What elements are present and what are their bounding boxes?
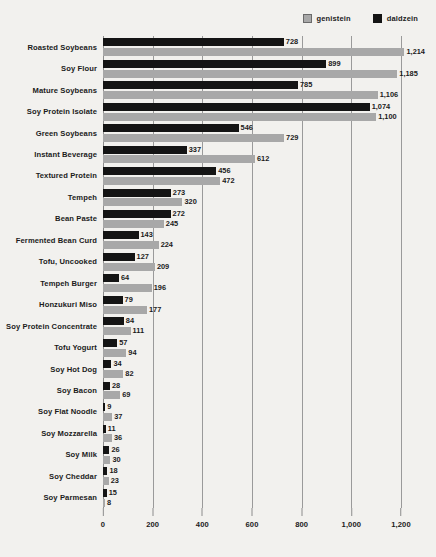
bar-daidzein[interactable] <box>103 296 123 304</box>
bar-group-genistein: 37 <box>103 413 122 421</box>
bar-value-daidzein: 143 <box>141 231 153 239</box>
bar-rows: Roasted Soybeans7281,214Soy Flour8991,18… <box>103 36 401 508</box>
x-tick: 0 <box>101 508 105 529</box>
bar-group-genistein: 196 <box>103 284 166 292</box>
bar-row: Soy Flour8991,185 <box>103 57 401 78</box>
bar-daidzein[interactable] <box>103 38 284 46</box>
bar-value-genistein: 23 <box>111 477 119 485</box>
legend-item-daidzein[interactable]: daldzein <box>373 14 418 23</box>
bar-value-genistein: 69 <box>122 391 130 399</box>
bar-daidzein[interactable] <box>103 425 106 433</box>
category-label: Tofu Yogurt <box>54 343 97 352</box>
bar-genistein[interactable] <box>103 263 155 271</box>
bar-genistein[interactable] <box>103 434 112 442</box>
bar-value-genistein: 111 <box>133 327 145 335</box>
bar-row: Soy Parmesan158 <box>103 487 401 508</box>
bar-daidzein[interactable] <box>103 189 171 197</box>
bar-daidzein[interactable] <box>103 317 124 325</box>
bar-daidzein[interactable] <box>103 382 110 390</box>
bar-daidzein[interactable] <box>103 403 105 411</box>
bar-group-genistein: 30 <box>103 456 121 464</box>
bar-genistein[interactable] <box>103 391 120 399</box>
bar-genistein[interactable] <box>103 198 182 206</box>
bar-group-genistein: 111 <box>103 327 144 335</box>
bar-genistein[interactable] <box>103 91 378 99</box>
bar-genistein[interactable] <box>103 370 123 378</box>
bar-value-daidzein: 9 <box>107 403 111 411</box>
bar-daidzein[interactable] <box>103 103 370 111</box>
legend-item-genistein[interactable]: genistein <box>303 14 351 23</box>
bar-value-genistein: 177 <box>149 306 161 314</box>
bar-genistein[interactable] <box>103 349 126 357</box>
bar-genistein[interactable] <box>103 413 112 421</box>
category-label: Tofu, Uncooked <box>39 257 97 266</box>
bar-group-daidzein: 11 <box>103 425 116 433</box>
bar-genistein[interactable] <box>103 456 110 464</box>
x-tick-label: 800 <box>295 520 308 529</box>
bar-value-daidzein: 64 <box>121 274 129 282</box>
bar-group-genistein: 612 <box>103 155 269 163</box>
bar-genistein[interactable] <box>103 220 164 228</box>
bar-group-genistein: 320 <box>103 198 197 206</box>
bar-row: Honzukuri Miso79177 <box>103 293 401 314</box>
bar-genistein[interactable] <box>103 306 147 314</box>
bar-daidzein[interactable] <box>103 210 171 218</box>
bar-row: Soy Flat Noodle937 <box>103 401 401 422</box>
bar-group-daidzein: 273 <box>103 189 185 197</box>
bar-genistein[interactable] <box>103 499 105 507</box>
bar-group-daidzein: 546 <box>103 124 253 132</box>
bar-daidzein[interactable] <box>103 81 298 89</box>
bar-genistein[interactable] <box>103 284 152 292</box>
x-tick-mark <box>400 508 401 516</box>
bar-genistein[interactable] <box>103 134 284 142</box>
bar-daidzein[interactable] <box>103 360 111 368</box>
bar-genistein[interactable] <box>103 113 376 121</box>
bar-value-genistein: 1,100 <box>378 113 397 121</box>
bar-genistein[interactable] <box>103 155 255 163</box>
bar-group-daidzein: 79 <box>103 296 133 304</box>
bar-value-genistein: 1,185 <box>399 70 418 78</box>
bar-daidzein[interactable] <box>103 467 107 475</box>
bar-genistein[interactable] <box>103 327 131 335</box>
bar-value-genistein: 1,106 <box>380 91 399 99</box>
bar-genistein[interactable] <box>103 477 109 485</box>
bar-row: Soy Milk2630 <box>103 444 401 465</box>
x-tick: 800 <box>295 508 308 529</box>
bar-daidzein[interactable] <box>103 339 117 347</box>
bar-value-daidzein: 127 <box>137 253 149 261</box>
bar-daidzein[interactable] <box>103 60 326 68</box>
bar-genistein[interactable] <box>103 177 220 185</box>
bar-value-daidzein: 273 <box>173 189 185 197</box>
bar-value-daidzein: 18 <box>109 467 117 475</box>
x-tick-label: 1,200 <box>391 520 411 529</box>
bar-group-genistein: 472 <box>103 177 235 185</box>
bar-daidzein[interactable] <box>103 446 109 454</box>
bar-genistein[interactable] <box>103 70 397 78</box>
bar-daidzein[interactable] <box>103 274 119 282</box>
legend-label-daidzein: daldzein <box>387 14 418 23</box>
category-label: Textured Protein <box>36 171 97 180</box>
category-label: Soy Hot Dog <box>50 364 97 373</box>
bar-daidzein[interactable] <box>103 253 135 261</box>
bar-value-daidzein: 28 <box>112 382 120 390</box>
gridline-1200 <box>401 36 402 508</box>
bar-daidzein[interactable] <box>103 167 216 175</box>
bar-daidzein[interactable] <box>103 489 107 497</box>
bar-genistein[interactable] <box>103 241 159 249</box>
bar-daidzein[interactable] <box>103 146 187 154</box>
category-label: Tempeh <box>68 192 97 201</box>
bar-group-daidzein: 272 <box>103 210 185 218</box>
bar-genistein[interactable] <box>103 48 404 56</box>
bar-value-daidzein: 84 <box>126 317 134 325</box>
bar-value-daidzein: 11 <box>108 425 116 433</box>
bar-row: Roasted Soybeans7281,214 <box>103 36 401 57</box>
bar-group-genistein: 209 <box>103 263 169 271</box>
bar-group-genistein: 1,214 <box>103 48 425 56</box>
bar-value-daidzein: 456 <box>218 167 230 175</box>
bar-daidzein[interactable] <box>103 231 139 239</box>
bar-daidzein[interactable] <box>103 124 239 132</box>
bar-value-genistein: 37 <box>114 413 122 421</box>
bar-value-daidzein: 337 <box>189 146 201 154</box>
category-label: Soy Mozzarella <box>41 428 97 437</box>
bar-group-genistein: 94 <box>103 349 137 357</box>
